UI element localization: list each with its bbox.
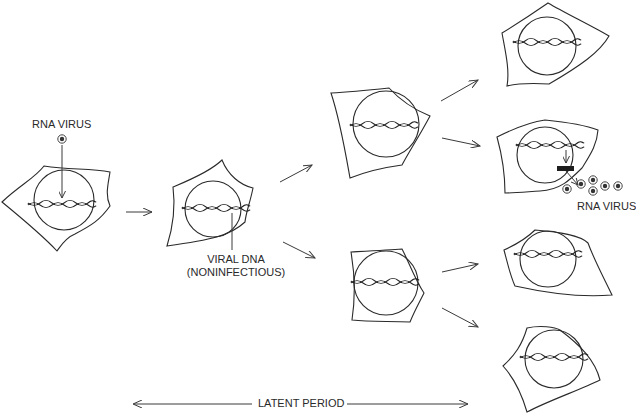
- virion-icon: [577, 180, 585, 188]
- cell-gen3-2: [497, 120, 598, 193]
- cell-gen2-top: [331, 88, 430, 178]
- arrow-gen2-bottom-to-gen3-4: [442, 308, 478, 327]
- diagram-canvas: [0, 0, 636, 416]
- arrow-gen2-top-to-gen3-2: [442, 138, 480, 146]
- viral-dna-label: VIRAL DNA (NONINFECTIOUS): [186, 253, 286, 279]
- cell-gen3-3: [504, 230, 612, 296]
- arrow-gen2-bottom-to-gen3-3: [442, 264, 478, 272]
- cell-infected: [2, 166, 110, 251]
- virion-icon: [563, 185, 571, 193]
- cell-gen3-4: [503, 327, 600, 412]
- virion-icon: [589, 176, 597, 184]
- virion-icon: [589, 187, 597, 195]
- viral-dna-label-line1: VIRAL DNA: [186, 253, 286, 266]
- arrow-integrated-to-gen2-bottom: [283, 242, 315, 258]
- arrow-integrated-to-gen2-top: [280, 165, 312, 182]
- cell-gen3-1: [502, 3, 609, 86]
- released-virions: [563, 176, 622, 195]
- arrow-gen2-top-to-gen3-1: [441, 80, 478, 101]
- latent-period-label: LATENT PERIOD: [255, 397, 347, 410]
- cell-gen2-bottom: [351, 249, 424, 322]
- rna-virus-label: RNA VIRUS: [32, 118, 91, 131]
- cell-integrated: [167, 160, 253, 250]
- rna-virus-particle-icon: [58, 135, 66, 143]
- virion-icon: [601, 182, 609, 190]
- rna-virus-release-label: RNA VIRUS: [577, 200, 636, 213]
- virion-icon: [614, 182, 622, 190]
- viral-dna-label-line2: (NONINFECTIOUS): [186, 266, 286, 279]
- viral-rna-transcript: [557, 166, 574, 171]
